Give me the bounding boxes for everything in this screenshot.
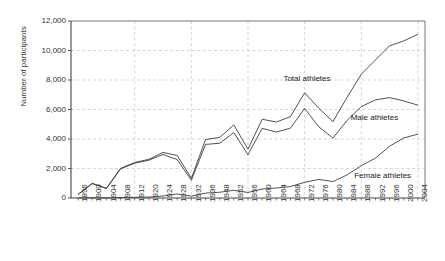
series-annotation-female-athletes: Female athletes xyxy=(354,171,411,180)
series-annotation-male-athletes: Male athletes xyxy=(351,113,399,122)
chart-container: Number of participants 02,0004,0006,0008… xyxy=(0,0,445,261)
series-annotation-total-athletes: Total athletes xyxy=(283,74,330,83)
plot-svg xyxy=(0,0,445,261)
